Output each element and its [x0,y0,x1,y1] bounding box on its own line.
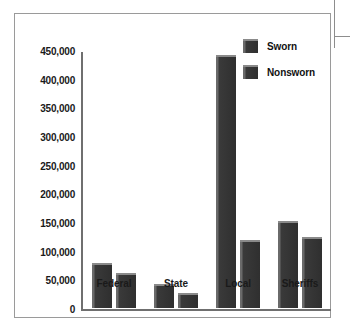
y-axis-tick-label: 150,000 [15,219,75,229]
plot-area [83,52,331,310]
legend-item-sworn: Sworn [243,36,339,56]
chart-legend: SwornNonsworn [243,36,339,88]
bar-sheriffs-nonsworn [302,237,322,308]
bar-sheriffs-sworn [278,221,298,308]
x-axis-label-state: State [145,278,207,289]
y-axis-tick-label: 200,000 [15,190,75,200]
y-axis-tick-label: 50,000 [15,276,75,286]
bar-local-nonsworn [240,240,260,308]
bar-local-sworn [216,55,236,308]
legend-item-nonsworn: Nonsworn [243,62,339,82]
legend-swatch-icon [243,39,258,53]
x-axis-label-local: Local [207,278,269,289]
y-axis-tick-label: 100,000 [15,248,75,258]
y-axis-tick-label: 450,000 [15,47,75,57]
y-axis-tick-label: 350,000 [15,104,75,114]
legend-swatch-icon [243,65,258,79]
figure-container: 050,000100,000150,000200,000250,000300,0… [0,0,350,332]
y-axis-line [81,52,83,310]
legend-label: Nonsworn [267,67,315,78]
bar-chart: 050,000100,000150,000200,000250,000300,0… [14,13,331,318]
x-axis-label-sheriffs: Sheriffs [269,278,331,289]
y-axis-tick-label: 400,000 [15,76,75,86]
bar-state-nonsworn [178,293,198,308]
y-axis-tick-label: 250,000 [15,162,75,172]
y-axis-tick-label: 0 [15,305,75,315]
y-axis-tick-label: 300,000 [15,133,75,143]
legend-label: Sworn [267,41,297,52]
x-axis-label-federal: Federal [83,278,145,289]
x-axis-line [81,309,331,311]
